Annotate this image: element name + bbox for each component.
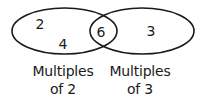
venn-diagram: 2 4 6 3 Multiples of 2 Multiples of 3 [0, 0, 211, 103]
element-3: 3 [147, 23, 156, 39]
set-a-label-line1: Multiples [32, 63, 93, 79]
element-2: 2 [36, 16, 45, 32]
element-6-intersection: 6 [97, 24, 106, 40]
set-multiples-of-3-ellipse [90, 8, 194, 54]
set-b-label-line1: Multiples [109, 63, 170, 79]
element-4: 4 [59, 36, 68, 52]
set-a-label-line2: of 2 [50, 81, 76, 97]
set-b-label-line2: of 3 [127, 81, 153, 97]
